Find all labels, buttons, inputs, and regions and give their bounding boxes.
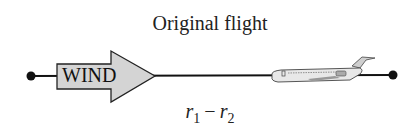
end-point-dot — [389, 71, 398, 80]
r2-sub: 2 — [227, 111, 234, 126]
r1-sub: 1 — [193, 111, 200, 126]
wind-label: WIND — [62, 64, 116, 87]
resultant-label: r1−r2 — [0, 100, 420, 127]
airplane-icon — [272, 57, 375, 82]
start-point-dot — [27, 72, 36, 81]
minus-operator: − — [204, 100, 215, 122]
